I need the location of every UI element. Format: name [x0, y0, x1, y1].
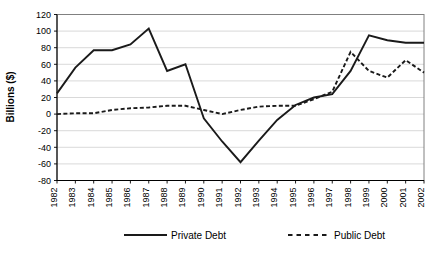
x-tick-label-1984: 1984 — [86, 188, 96, 208]
x-tick-label-1987: 1987 — [141, 188, 151, 208]
y-tick-label: 60 — [41, 60, 51, 70]
y-tick-label: 100 — [36, 26, 51, 36]
y-tick-label: 120 — [36, 10, 51, 20]
chart-container: 120100806040200-20-40-60-80 198219831984… — [0, 0, 444, 253]
y-tick-label: -40 — [38, 143, 51, 153]
x-tick-label-1982: 1982 — [49, 188, 59, 208]
x-tick-label-1997: 1997 — [324, 188, 334, 208]
x-tick-label-1993: 1993 — [251, 188, 261, 208]
y-tick-label: 80 — [41, 43, 51, 53]
legend-label-private-debt: Private Debt — [171, 230, 226, 241]
x-tick-label-2000: 2000 — [379, 188, 389, 208]
x-tick-label-1983: 1983 — [67, 188, 77, 208]
x-tick-label-1995: 1995 — [288, 188, 298, 208]
legend-label-public-debt: Public Debt — [334, 230, 385, 241]
x-tick-label-1991: 1991 — [214, 188, 224, 208]
y-tick-label: 40 — [41, 76, 51, 86]
x-tick-label-1996: 1996 — [306, 188, 316, 208]
x-tick-label-1985: 1985 — [104, 188, 114, 208]
x-tick-label-1990: 1990 — [196, 188, 206, 208]
y-tick-label: -60 — [38, 159, 51, 169]
y-axis-title: Billions ($) — [5, 71, 16, 122]
x-tick-label-1999: 1999 — [361, 188, 371, 208]
x-tick-label-2002: 2002 — [416, 188, 426, 208]
x-tick-label-1994: 1994 — [269, 188, 279, 208]
x-tick-label-1989: 1989 — [177, 188, 187, 208]
y-tick-label: 20 — [41, 93, 51, 103]
y-tick-label: -80 — [38, 176, 51, 186]
x-tick-label-1986: 1986 — [122, 188, 132, 208]
x-tick-label-1992: 1992 — [233, 188, 243, 208]
x-tick-label-1988: 1988 — [159, 188, 169, 208]
x-tick-label-1998: 1998 — [343, 188, 353, 208]
x-tick-label-2001: 2001 — [398, 188, 408, 208]
y-tick-label: 0 — [46, 109, 51, 119]
y-tick-label: -20 — [38, 126, 51, 136]
debt-line-chart: 120100806040200-20-40-60-80 198219831984… — [0, 0, 444, 253]
